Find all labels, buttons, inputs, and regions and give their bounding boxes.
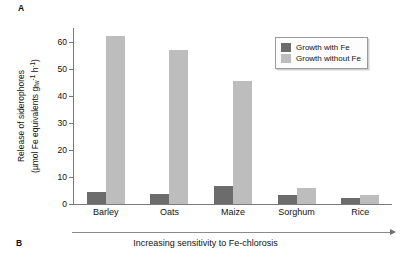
y-axis-tick-label: 30 [58,118,67,128]
sensitivity-arrow-line [72,232,392,233]
bar [341,198,360,204]
y-axis-tick-label: 10 [58,172,67,182]
x-axis-category-label: Barley [93,207,119,217]
panel-label-a: A [18,3,24,13]
x-axis-category-label: Maize [221,207,245,217]
legend-label-with-fe: Growth with Fe [296,43,350,52]
y-axis-title: Release of siderophores (µmol Fe equival… [14,28,44,204]
legend-item: Growth without Fe [281,53,361,64]
y-axis-tick [69,42,73,43]
x-axis-category-label: Rice [351,207,369,217]
legend-swatch-with-fe [281,43,291,52]
y-axis-tick [69,123,73,124]
legend-swatch-without-fe [281,54,291,63]
y-axis-tick-label: 20 [58,145,67,155]
legend-label-without-fe: Growth without Fe [296,54,361,63]
y-axis-tick-label: 0 [62,199,67,209]
y-axis-tick [69,177,73,178]
bar-group [87,28,125,204]
bar [106,36,125,204]
y-axis-tick [69,204,73,205]
y-axis-tick-label: 60 [58,37,67,47]
bar [214,186,233,204]
bar [360,195,379,204]
sensitivity-arrow-head-icon [390,229,396,235]
x-axis-line [73,204,392,205]
chart-legend: Growth with Fe Growth without Fe [275,37,368,69]
y-axis-tick-label: 40 [58,91,67,101]
y-axis-tick-label: 50 [58,64,67,74]
x-axis-category-label: Sorghum [278,207,315,217]
bar [233,81,252,204]
bar-group [214,28,252,204]
bar [87,192,106,204]
y-axis-title-line1: Release of siderophores [16,70,27,162]
bar [278,195,297,204]
bar [297,188,316,204]
bar-group [150,28,188,204]
y-axis-tick [69,150,73,151]
y-axis-title-line2: (µmol Fe equivalents gfw-1 h-1) [27,59,42,173]
sensitivity-arrow-caption: Increasing sensitivity to Fe-chlorosis [0,238,411,248]
y-axis-tick [69,69,73,70]
y-axis-tick [69,96,73,97]
bar [150,194,169,204]
legend-item: Growth with Fe [281,42,361,53]
figure-panel-a: A B Release of siderophores (µmol Fe equ… [0,0,411,261]
x-axis-category-label: Oats [160,207,179,217]
bar [169,50,188,204]
